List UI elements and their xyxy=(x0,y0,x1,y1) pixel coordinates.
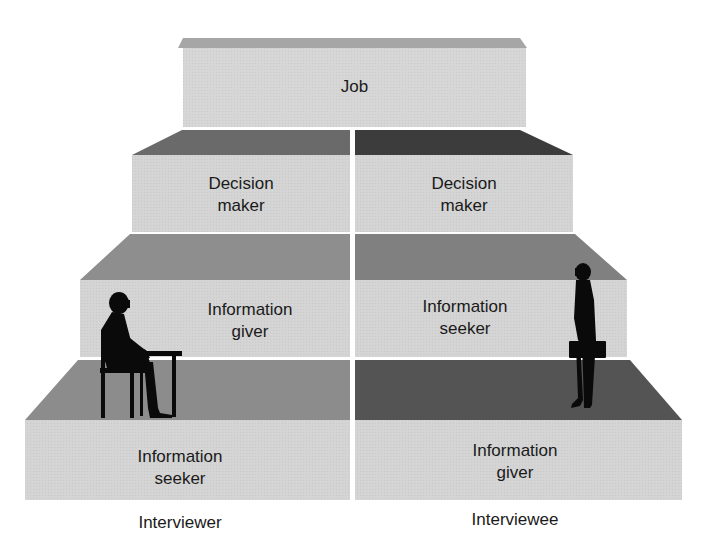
label-info-bottom-right: Information giver xyxy=(415,440,615,484)
label-decision-left: Decision maker xyxy=(132,173,350,217)
label-line: Information xyxy=(80,446,280,468)
label-info-bottom-left: Information seeker xyxy=(80,446,280,490)
label-line: giver xyxy=(150,321,350,343)
label-line: Information xyxy=(355,296,575,318)
label-line: Information xyxy=(415,440,615,462)
decision-right-top xyxy=(355,130,573,155)
label-info-middle-left: Information giver xyxy=(150,299,350,343)
label-line: Decision xyxy=(355,173,573,195)
label-line: Information xyxy=(150,299,350,321)
label-line: giver xyxy=(415,462,615,484)
label-line: seeker xyxy=(80,468,280,490)
label-job: Job xyxy=(183,76,526,98)
label-line: Job xyxy=(183,76,526,98)
label-line: maker xyxy=(355,195,573,217)
label-info-middle-right: Information seeker xyxy=(355,296,575,340)
caption-interviewee: Interviewee xyxy=(415,510,615,530)
info-bottom-right-top xyxy=(355,360,682,420)
pyramid-diagram: Job Decision maker Decision maker Inform… xyxy=(0,0,710,540)
caption-interviewer: Interviewer xyxy=(80,513,280,533)
info-bottom-left-top xyxy=(25,360,350,420)
decision-left-top xyxy=(132,130,350,155)
label-decision-right: Decision maker xyxy=(355,173,573,217)
job-top-face xyxy=(178,38,527,48)
label-line: maker xyxy=(132,195,350,217)
label-line: Decision xyxy=(132,173,350,195)
label-line: seeker xyxy=(355,318,575,340)
info-middle-left-top xyxy=(80,234,350,280)
